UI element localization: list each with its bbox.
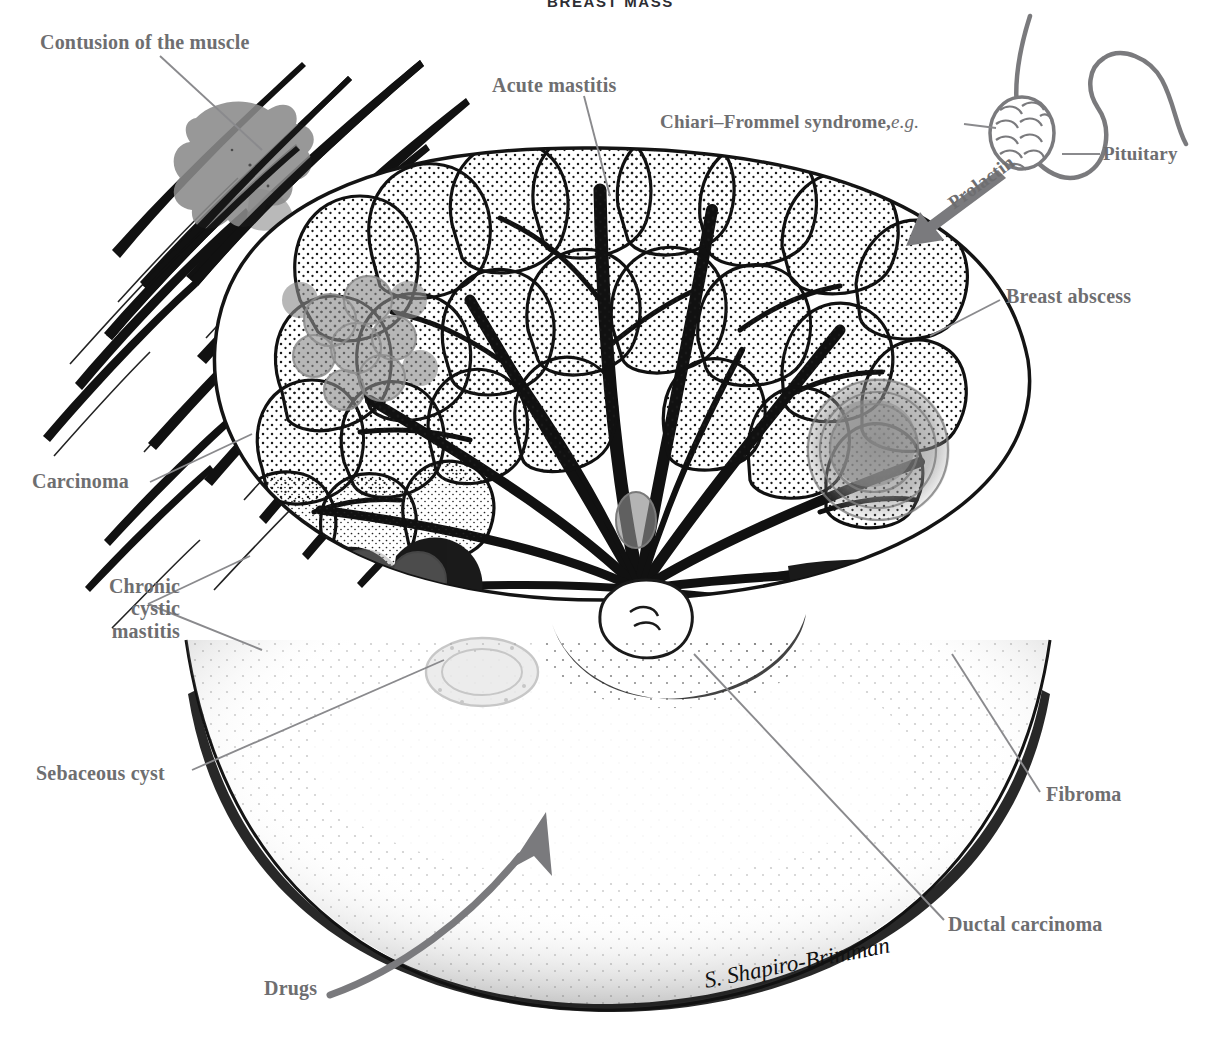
ductal-carcinoma-lesion <box>616 492 656 548</box>
label-fibroma: Fibroma <box>1046 783 1121 805</box>
label-ductal-carcinoma: Ductal carcinoma <box>948 913 1102 935</box>
label-chronic-line1: Chronic <box>30 575 180 597</box>
label-drugs: Drugs <box>264 977 317 999</box>
label-chiari-eg: e.g. <box>891 111 919 132</box>
mammary-gland-field <box>206 127 978 714</box>
contusion-lesion <box>174 102 314 231</box>
label-acute-mastitis: Acute mastitis <box>492 74 616 96</box>
label-chiari-frommel-syndrome: Chiari–Frommel syndrome,e.g. <box>660 111 919 132</box>
breast-anatomy-illustration: S. Shapiro-Brimman <box>0 0 1221 1064</box>
breast-abscess-lesion <box>806 378 950 522</box>
label-chiari-text: Chiari–Frommel syndrome, <box>660 111 891 132</box>
label-pituitary: Pituitary <box>1103 143 1178 164</box>
figure-canvas: BREAST MASS <box>0 0 1221 1064</box>
label-carcinoma: Carcinoma <box>32 470 129 492</box>
label-sebaceous-cyst: Sebaceous cyst <box>36 762 165 784</box>
label-chronic-line2: cystic <box>30 597 180 619</box>
label-contusion-of-the-muscle: Contusion of the muscle <box>40 31 250 53</box>
label-breast-abscess: Breast abscess <box>1006 285 1131 307</box>
label-chronic-cystic-mastitis: Chroniccysticmastitis <box>30 575 180 642</box>
sebaceous-cyst-lesion <box>426 638 538 706</box>
label-chronic-line3: mastitis <box>30 620 180 642</box>
